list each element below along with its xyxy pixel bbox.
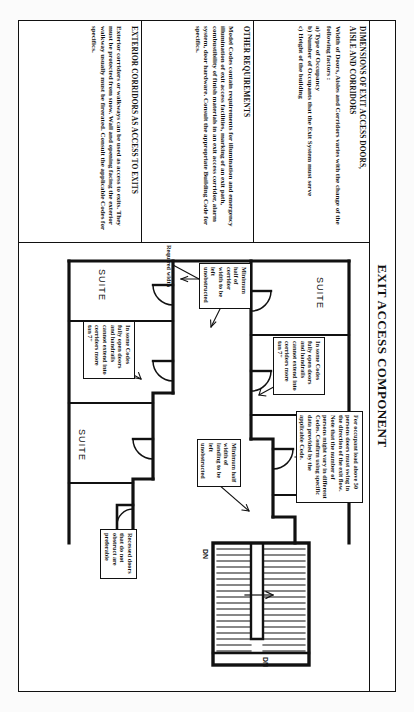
page-title: EXIT ACCESS COMPONENT [375, 265, 391, 448]
note-bullet-height: c) Height of the building [296, 26, 305, 238]
label-stair-dn-left: DN [202, 549, 209, 559]
stair-handrail [251, 545, 263, 639]
note-bullet-occupants: b) Number of Occupants that the Exit Sys… [305, 26, 314, 238]
suite-label-6: SUITE [77, 429, 87, 461]
label-stair-dn-right: DN [262, 657, 269, 667]
callout-open-doors-handrails-bottom: In some Codes fully open doors and handr… [83, 321, 135, 379]
recessed-door-swing [117, 509, 133, 525]
stair-treads-lower [217, 549, 251, 651]
note-bullet-occupancy: a) Type of Occupancy [314, 26, 323, 238]
corridor-wall-lower-jog [153, 393, 173, 479]
note-heading-other-requirements: OTHER REQUIREMENTS [241, 26, 250, 238]
floor-plan-drawing: SUITE SUITE SUITE SUITE SUITE SUITE For … [19, 243, 369, 691]
sheet-title-bar: EXIT ACCESS COMPONENT [369, 21, 395, 691]
suite-label-4: SUITE [97, 269, 107, 301]
note-column-other-requirements: OTHER REQUIREMENTS Model Codes contain r… [141, 21, 253, 242]
corridor-wall-upper-jog [251, 439, 273, 517]
note-body-other-requirements: Model Codes contain requirements for ill… [193, 26, 235, 238]
note-column-exterior-corridors: EXTERIOR CORRIDORS AS ACCESS TO EXITS Ex… [19, 21, 141, 242]
suite-label-1: SUITE [315, 277, 325, 309]
callout-occupant-load: For occupant load above 50 persons doors… [296, 411, 363, 503]
drawing-sheet: EXIT ACCESS COMPONENT DIMENSIONS OF EXIT… [18, 20, 396, 692]
note-column-dimensions: DIMENSIONS OF EXIT ACCESS DOORS, AISLE A… [253, 21, 369, 242]
callout-landing-half-width: Minimum half width of landing to be left… [197, 439, 241, 487]
callout-corridor-half-width: Minimum half of corridor width to be lef… [199, 263, 251, 309]
callout-open-doors-handrails-top: In some Codes fully open doors and handr… [273, 337, 325, 395]
corridor-wall-upper-recess [273, 517, 295, 543]
label-required-width: Required width [166, 245, 173, 287]
screenshot-page: EXIT ACCESS COMPONENT DIMENSIONS OF EXIT… [0, 0, 414, 712]
note-body-dimensions: Width of Doors, Aisles and Corridors var… [325, 26, 342, 238]
note-body-exterior-corridors: Exterior corridors or walkways can be us… [90, 26, 124, 238]
note-heading-dimensions-line1: DIMENSIONS OF EXIT ACCESS DOORS, [357, 26, 366, 238]
note-heading-dimensions-line2: AISLE AND CORRIDORS [348, 26, 357, 238]
note-bullets-dimensions: a) Type of Occupancy b) Number of Occupa… [296, 26, 322, 238]
stair-treads-upper [263, 549, 305, 651]
callout-recessed-doors: Recessed doors that do not obstruct are … [100, 529, 137, 579]
notes-band: DIMENSIONS OF EXIT ACCESS DOORS, AISLE A… [19, 21, 369, 243]
note-heading-exterior-corridors: EXTERIOR CORRIDORS AS ACCESS TO EXITS [129, 26, 138, 238]
